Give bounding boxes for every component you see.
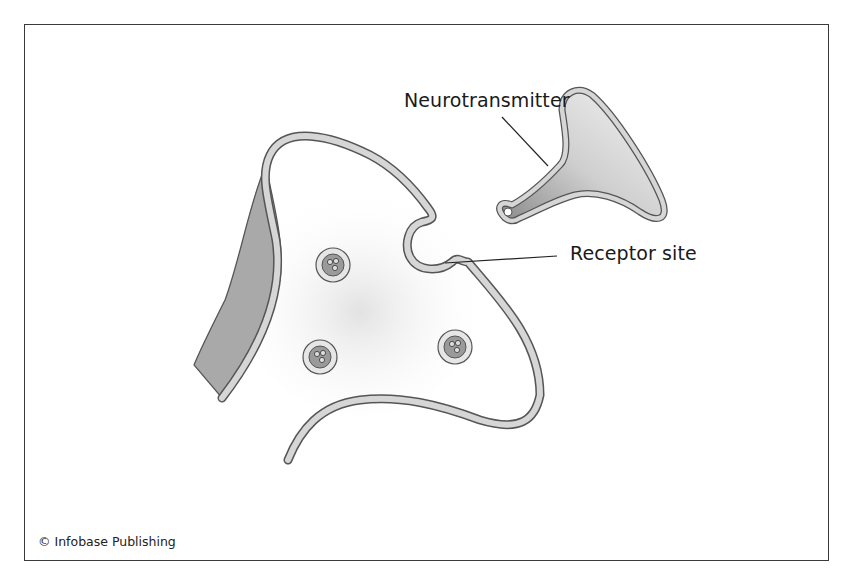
vesicle: [438, 330, 472, 364]
vesicle: [316, 248, 350, 282]
receptor-site-label: Receptor site: [570, 242, 697, 264]
synapse-illustration: [0, 0, 849, 582]
neurotransmitter-label: Neurotransmitter: [404, 89, 570, 111]
vesicle: [303, 340, 337, 374]
neurotransmitter-leader-line: [502, 117, 548, 166]
copyright-credit: © Infobase Publishing: [38, 534, 176, 549]
